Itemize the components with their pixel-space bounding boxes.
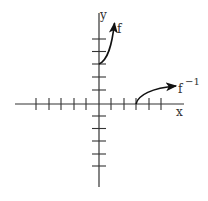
curve-f-inverse-label: f xyxy=(178,82,184,96)
y-axis-label: y xyxy=(99,8,107,22)
curve-f-inverse-superscript: −1 xyxy=(185,76,200,87)
curve-f-label: f xyxy=(117,22,123,36)
x-axis-label: x xyxy=(176,105,183,119)
curve-f xyxy=(99,23,115,64)
curve-f-inverse xyxy=(136,86,176,104)
function-inverse-graph: y x f f −1 xyxy=(0,0,208,201)
